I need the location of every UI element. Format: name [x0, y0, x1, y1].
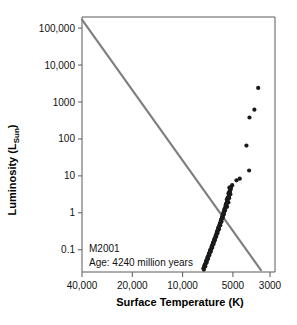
cluster-stars-series — [201, 86, 260, 272]
star-data-point — [204, 258, 208, 262]
star-data-point — [223, 207, 227, 211]
star-data-point — [209, 248, 213, 252]
chart-annotation: M2001 Age: 4240 million years — [89, 243, 193, 268]
y-axis-title: Luminosity (LSun) — [6, 124, 21, 215]
star-data-point — [210, 244, 214, 248]
star-data-point — [256, 86, 260, 90]
star-data-point — [215, 229, 219, 233]
cluster-age-label: Age: 4240 million years — [89, 257, 193, 268]
star-data-point — [221, 213, 225, 217]
chart-canvas: 100,00010,00010001001010.1 40,00020,0001… — [0, 0, 297, 325]
y-tick-label: 10 — [64, 170, 76, 181]
x-tick-label: 5000 — [222, 280, 245, 291]
x-axis-title: Surface Temperature (K) — [116, 296, 244, 308]
x-tick-label: 10,000 — [167, 280, 198, 291]
star-data-point — [214, 233, 218, 237]
hr-diagram-figure: 100,00010,00010001001010.1 40,00020,0001… — [0, 0, 297, 325]
star-data-point — [247, 168, 251, 172]
star-data-point — [203, 262, 207, 266]
star-data-point — [226, 195, 230, 199]
star-data-point — [244, 144, 248, 148]
y-tick-label: 0.1 — [61, 244, 75, 255]
star-data-point — [224, 202, 228, 206]
star-data-point — [206, 255, 210, 259]
cluster-name-label: M2001 — [89, 243, 120, 254]
star-data-point — [218, 221, 222, 225]
y-tick-label: 100,000 — [39, 23, 76, 34]
y-tick-label: 100 — [58, 133, 75, 144]
x-tick-label: 20,000 — [117, 280, 148, 291]
x-axis-ticks: 40,00020,00010,00050003000 — [67, 272, 282, 291]
star-data-point — [252, 108, 256, 112]
star-data-point — [207, 251, 211, 255]
star-data-point — [227, 189, 231, 193]
y-tick-label: 1 — [69, 207, 75, 218]
y-axis-title-text: Luminosity (LSun) — [6, 124, 21, 215]
star-data-point — [234, 178, 238, 182]
x-tick-label: 3000 — [259, 280, 282, 291]
star-data-point — [247, 115, 251, 119]
x-axis-title-text: Surface Temperature (K) — [116, 296, 244, 308]
y-tick-label: 1000 — [53, 97, 76, 108]
star-data-point — [219, 217, 223, 221]
y-tick-label: 10,000 — [44, 60, 75, 71]
star-data-point — [217, 225, 221, 229]
zams-line-series — [82, 20, 261, 271]
star-data-point — [213, 237, 217, 241]
zams-reference-line — [82, 20, 261, 271]
star-data-point — [211, 240, 215, 244]
x-tick-label: 40,000 — [67, 280, 98, 291]
y-axis-ticks: 100,00010,00010001001010.1 — [39, 23, 82, 256]
star-data-point — [202, 266, 206, 270]
